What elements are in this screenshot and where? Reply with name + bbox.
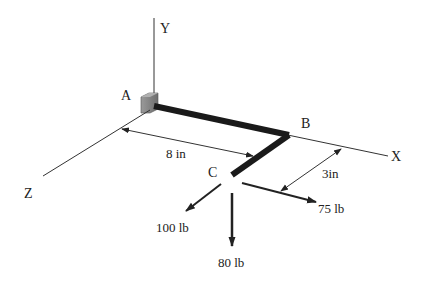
force-75lb-label: 75 lb (318, 201, 344, 216)
beam-bc (232, 135, 289, 175)
z-axis-label: Z (24, 186, 33, 201)
z-axis (43, 110, 150, 176)
x-axis-label: X (391, 149, 401, 164)
point-b-label: B (301, 116, 310, 131)
force-100lb-label: 100 lb (156, 220, 189, 235)
force-arrow-100lb (186, 184, 221, 211)
force-80lb-label: 80 lb (218, 255, 244, 270)
beam-ab (154, 106, 289, 135)
dimension-8in (122, 129, 253, 156)
bent-rod-diagram: Y A X Z B C 8 in 3in 100 lb 80 lb (0, 0, 421, 281)
point-a-label: A (121, 88, 132, 103)
force-arrow-75lb (242, 183, 316, 202)
dimension-8in-label: 8 in (166, 146, 186, 161)
point-c-label: C (208, 165, 217, 180)
y-axis-label: Y (160, 21, 170, 36)
dimension-3in-label: 3in (322, 166, 339, 181)
